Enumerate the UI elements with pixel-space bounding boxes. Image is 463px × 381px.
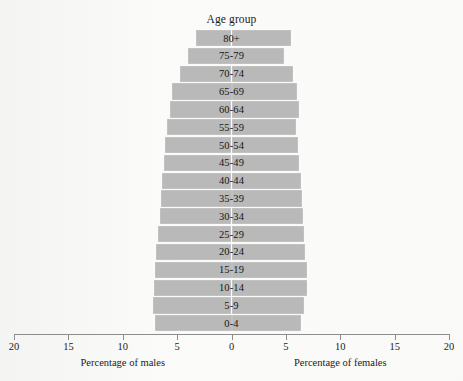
population-pyramid-figure: Age group 80+75-7970-7465-6960-6455-5950…	[0, 0, 463, 381]
bar-male	[164, 155, 231, 171]
x-axis-label-females: Percentage of females	[294, 357, 387, 368]
x-axis-tick	[395, 334, 396, 340]
pyramid-row: 55-59	[14, 119, 449, 135]
x-axis-tick-label: 10	[335, 341, 346, 352]
bar-female	[232, 48, 284, 64]
x-axis-tick	[232, 334, 233, 340]
bar-male	[155, 315, 231, 331]
bar-female	[232, 101, 299, 117]
bar-female	[232, 173, 302, 189]
pyramid-row: 75-79	[14, 48, 449, 64]
x-axis-label-males: Percentage of males	[80, 357, 165, 368]
bar-male	[172, 83, 232, 99]
bar-male	[188, 48, 232, 64]
x-axis-tick-label: 5	[175, 341, 180, 352]
x-axis-tick-label: 20	[444, 341, 455, 352]
bar-female	[232, 280, 307, 296]
bar-male	[161, 190, 232, 206]
bar-female	[232, 262, 307, 278]
x-axis-tick	[449, 334, 450, 340]
pyramid-row: 15-19	[14, 262, 449, 278]
pyramid-row: 50-54	[14, 137, 449, 153]
bar-female	[232, 244, 306, 260]
x-axis-tick	[14, 334, 15, 340]
plot-area: 80+75-7970-7465-6960-6455-5950-5445-4940…	[14, 30, 449, 333]
bar-male	[180, 66, 231, 82]
pyramid-row: 20-24	[14, 244, 449, 260]
pyramid-row: 5-9	[14, 297, 449, 313]
chart-title: Age group	[0, 13, 463, 25]
x-axis-tick	[68, 334, 69, 340]
x-axis-tick-label: 15	[389, 341, 400, 352]
pyramid-row: 25-29	[14, 226, 449, 242]
bar-male	[153, 297, 231, 313]
bar-male	[167, 119, 231, 135]
bar-female	[232, 297, 305, 313]
pyramid-row: 45-49	[14, 155, 449, 171]
bar-male	[156, 244, 231, 260]
x-axis-tick-label: 20	[9, 341, 20, 352]
x-axis-tick	[123, 334, 124, 340]
bar-male	[154, 280, 231, 296]
pyramid-row: 0-4	[14, 315, 449, 331]
pyramid-row: 35-39	[14, 190, 449, 206]
bar-female	[232, 83, 297, 99]
pyramid-row: 65-69	[14, 83, 449, 99]
bar-female	[232, 137, 298, 153]
pyramid-row: 70-74	[14, 66, 449, 82]
bar-male	[162, 173, 232, 189]
pyramid-row: 60-64	[14, 101, 449, 117]
x-axis-tick	[340, 334, 341, 340]
bar-male	[158, 226, 232, 242]
bar-female	[232, 226, 305, 242]
bar-female	[232, 155, 299, 171]
bar-female	[232, 66, 294, 82]
x-axis-tick	[286, 334, 287, 340]
bar-male	[155, 262, 231, 278]
x-axis-tick-label: 0	[229, 341, 234, 352]
x-axis-tick-label: 10	[118, 341, 129, 352]
x-axis-tick-label: 15	[63, 341, 74, 352]
pyramid-row: 10-14	[14, 280, 449, 296]
bar-male	[160, 208, 232, 224]
bar-female	[232, 30, 292, 46]
bar-female	[232, 208, 304, 224]
x-axis-tick	[177, 334, 178, 340]
pyramid-row: 80+	[14, 30, 449, 46]
pyramid-row: 30-34	[14, 208, 449, 224]
bar-male	[170, 101, 232, 117]
pyramid-row: 40-44	[14, 173, 449, 189]
x-axis-tick-label: 5	[283, 341, 288, 352]
bar-male	[196, 30, 232, 46]
bar-female	[232, 315, 302, 331]
bar-female	[232, 119, 296, 135]
bar-female	[232, 190, 303, 206]
bar-male	[165, 137, 231, 153]
